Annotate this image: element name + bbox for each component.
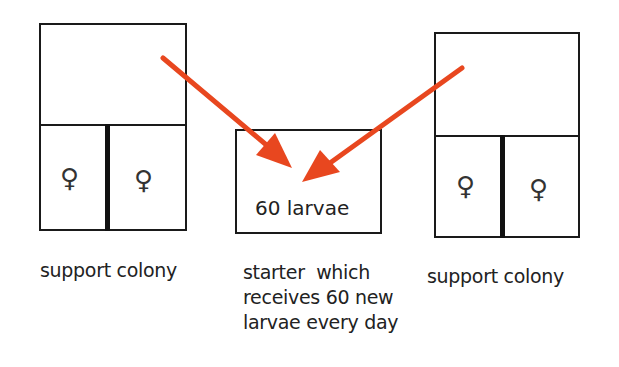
arrow-left-to-starter [163, 58, 292, 168]
left-colony-label: support colony [40, 258, 177, 283]
right-colony-label: support colony [427, 264, 564, 289]
starter-caption-line-2: receives 60 new [243, 285, 398, 310]
starter-caption-line-3: larvae every day [243, 310, 398, 335]
arrow-right-to-starter [302, 68, 462, 182]
starter-caption: starter which receives 60 new larvae eve… [243, 260, 398, 335]
starter-caption-line-1: starter which [243, 260, 398, 285]
